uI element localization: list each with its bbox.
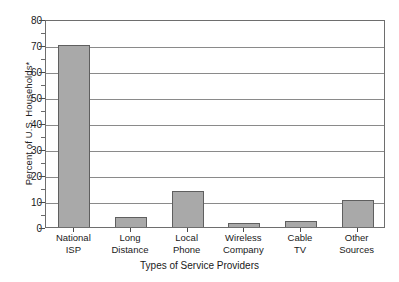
bar [228,223,260,227]
x-axis-tick-label-line: Phone [158,244,215,256]
x-axis-tick-label-line: Wireless [215,232,272,244]
x-axis-tick-label-line: Other [328,232,385,244]
bar [172,191,204,227]
bar-chart-figure: Percent of U.S. Households* 010203040506… [0,0,399,282]
plot-area [45,20,385,228]
gridline [46,203,384,204]
y-axis-tick-mark [39,228,45,229]
gridline [46,47,384,48]
x-axis-tick-label: OtherSources [328,232,385,256]
gridline [46,125,384,126]
x-axis-tick-label-line: Company [215,244,272,256]
x-axis-title: Types of Service Providers [0,260,399,271]
bar [115,217,147,227]
x-axis-tick-label-line: TV [272,244,329,256]
x-axis-tick-label-line: National [45,232,102,244]
x-axis-tick-label: LongDistance [102,232,159,256]
gridline [46,73,384,74]
x-axis-tick-label: LocalPhone [158,232,215,256]
bar [285,221,317,228]
bar [342,200,374,227]
bar [58,45,90,227]
x-axis-tick-label-line: Distance [102,244,159,256]
x-axis-tick-label-line: ISP [45,244,102,256]
x-axis-tick-label: CableTV [272,232,329,256]
x-axis-tick-label: WirelessCompany [215,232,272,256]
x-axis-tick-label-line: Sources [328,244,385,256]
x-axis-tick-label-line: Long [102,232,159,244]
x-axis-tick-label-line: Local [158,232,215,244]
gridline [46,99,384,100]
x-axis-tick-label: NationalISP [45,232,102,256]
x-axis-tick-label-line: Cable [272,232,329,244]
gridline [46,151,384,152]
gridline [46,177,384,178]
